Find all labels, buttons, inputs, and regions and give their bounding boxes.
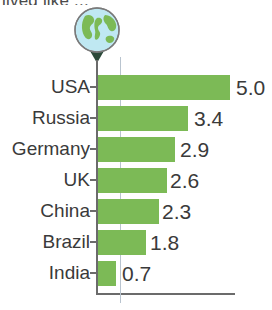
bar-value-india: 0.7 <box>122 261 151 286</box>
category-label-uk: UK <box>64 169 90 191</box>
axis-tick <box>90 86 96 88</box>
category-label-india: India <box>49 262 90 284</box>
horizontal-bar-chart: USA 5.0 Russia 3.4 Germany 2.9 UK 2.6 Ch… <box>0 0 272 310</box>
bar-row: USA 5.0 <box>0 72 272 103</box>
bar-india <box>98 261 116 286</box>
bar-row: UK 2.6 <box>0 165 272 196</box>
category-label-china: China <box>40 200 90 222</box>
bar-value-germany: 2.9 <box>180 137 209 162</box>
bar-germany <box>98 137 175 162</box>
bar-row: China 2.3 <box>0 196 272 227</box>
bar-uk <box>98 168 167 193</box>
bar-china <box>98 199 159 224</box>
category-label-russia: Russia <box>32 107 90 129</box>
axis-tick <box>90 148 96 150</box>
bar-russia <box>98 106 188 131</box>
axis-tick <box>90 241 96 243</box>
category-label-usa: USA <box>51 76 90 98</box>
bar-value-china: 2.3 <box>162 199 191 224</box>
category-label-germany: Germany <box>12 138 90 160</box>
bar-brazil <box>98 230 146 255</box>
x-axis-line <box>96 293 235 295</box>
axis-tick <box>90 179 96 181</box>
bar-value-brazil: 1.8 <box>150 230 179 255</box>
bar-row: Brazil 1.8 <box>0 227 272 258</box>
bar-value-usa: 5.0 <box>236 75 265 100</box>
bar-row: India 0.7 <box>0 258 272 289</box>
bar-value-uk: 2.6 <box>170 168 199 193</box>
globe-map-pin-icon <box>72 6 122 64</box>
bar-usa <box>98 75 230 100</box>
category-label-brazil: Brazil <box>42 231 90 253</box>
bar-row: Russia 3.4 <box>0 103 272 134</box>
axis-tick <box>90 210 96 212</box>
axis-tick <box>90 272 96 274</box>
bar-value-russia: 3.4 <box>194 106 223 131</box>
bar-row: Germany 2.9 <box>0 134 272 165</box>
axis-tick <box>90 117 96 119</box>
